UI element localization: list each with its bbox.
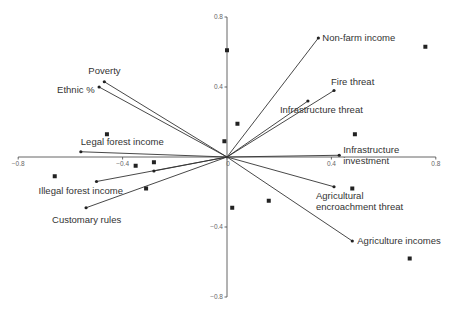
vector-endpoint: [95, 180, 98, 183]
site-marker: [230, 206, 234, 210]
site-marker: [144, 187, 148, 191]
site-marker: [353, 132, 357, 136]
site-marker: [408, 257, 412, 261]
x-tick-label: 0.8: [431, 160, 440, 167]
vector-label: Agriculture incomes: [357, 235, 441, 246]
vector-fire-threat: [227, 89, 336, 157]
vector-label: Legal forest income: [81, 136, 164, 147]
site-marker: [267, 199, 271, 203]
y-tick-label: 0.4: [214, 83, 223, 90]
vector-endpoint: [351, 239, 354, 242]
vector-label: encroachment threat: [316, 201, 403, 212]
vector-endpoint: [84, 206, 87, 209]
site-marker: [225, 48, 229, 52]
vector-label: Illegal forest income: [39, 185, 123, 196]
vector-line: [81, 152, 227, 157]
vector-line: [227, 157, 334, 187]
vector-label: Infrastructure: [343, 144, 399, 155]
site-marker: [222, 139, 226, 143]
vector-label: Fire threat: [331, 76, 375, 87]
vector-endpoint: [152, 169, 155, 172]
vector-legal-forest-income: [79, 150, 227, 157]
vector-label: investment: [343, 155, 389, 166]
vector-endpoint: [332, 89, 335, 92]
y-tick-label: 0.8: [214, 13, 223, 20]
vector-endpoint: [332, 185, 335, 188]
vector-line: [154, 157, 227, 171]
vector-line: [227, 38, 318, 157]
x-tick-label: −0.4: [116, 160, 129, 167]
vector-endpoint: [103, 80, 106, 83]
vector-endpoint: [306, 99, 309, 102]
site-marker: [235, 122, 239, 126]
site-marker: [53, 174, 57, 178]
vector-line: [86, 157, 227, 208]
vector-agricultural-encroachment-threat: [227, 157, 336, 188]
vector-non-farm-income: [227, 36, 320, 157]
vector-endpoint: [98, 85, 101, 88]
site-marker: [152, 160, 156, 164]
vector-infrastructure-investment: [227, 154, 341, 157]
vector-label: Agricultural: [316, 190, 364, 201]
vector-labels: Non-farm incomeFire threatInfrastructure…: [39, 32, 441, 246]
site-marker: [423, 45, 427, 49]
vector-label: Customary rules: [52, 214, 121, 225]
x-tick-label: −0.8: [12, 160, 25, 167]
vector-endpoint: [338, 154, 341, 157]
vector-label: Infrastructure threat: [280, 104, 363, 115]
vector-label: Poverty: [88, 65, 120, 76]
vector-label: Non-farm income: [322, 32, 395, 43]
vector-label: Ethnic %: [57, 84, 95, 95]
y-tick-label: −0.8: [210, 293, 223, 300]
vector-customary-rules: [84, 157, 227, 209]
x-tick-label: 0.4: [327, 160, 336, 167]
site-marker: [134, 164, 138, 168]
biplot-chart: −0.8−0.40.40.80.80.40−0.4−0.8 Non-farm i…: [0, 0, 456, 314]
vector-endpoint: [317, 36, 320, 39]
vector-line: [227, 91, 334, 158]
vector-endpoint: [79, 150, 82, 153]
y-tick-label: −0.4: [210, 223, 223, 230]
y-tick-label: 0: [226, 160, 230, 167]
